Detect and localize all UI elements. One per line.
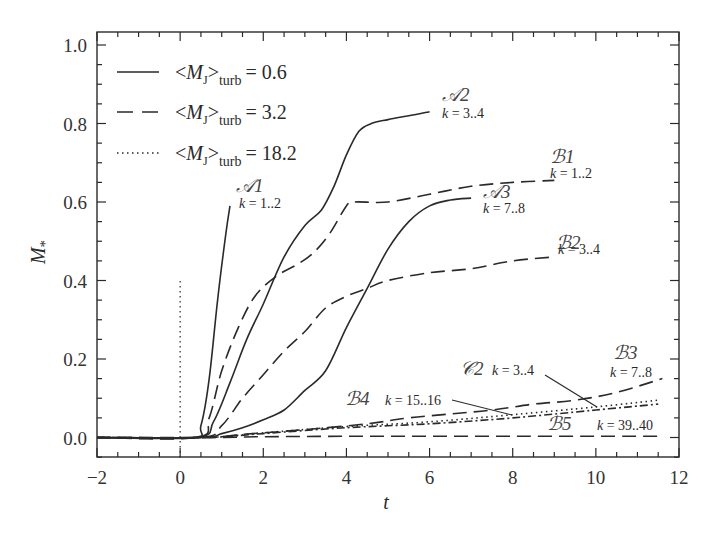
curve-annotations: 𝒜1k = 1..2𝒜2k = 3..4𝒜3k = 7..8ℬ1k = 1..2… [236, 84, 653, 434]
x-tick-label: 6 [425, 467, 435, 488]
y-tick-label: 0.2 [63, 349, 87, 370]
annotation-k-b5: k = 39..40 [597, 418, 653, 433]
x-tick-label: −2 [87, 467, 107, 488]
annotation-b4: ℬ4 [345, 388, 370, 409]
annotation-k-b2: k = 3..4 [558, 242, 600, 257]
curve-a1 [97, 206, 230, 438]
x-tick-label: 10 [586, 467, 605, 488]
legend-label: <MJ>turb= 3.2 [175, 101, 287, 128]
legend-label: <MJ>turb= 0.6 [175, 61, 287, 88]
x-tick-label: 8 [508, 467, 518, 488]
curve-b1 [97, 180, 554, 439]
x-tick-label: 2 [259, 467, 269, 488]
curve-b3 [97, 379, 662, 438]
legend-label: <MJ>turb= 18.2 [175, 142, 297, 169]
y-tick-label: 0.8 [63, 114, 87, 135]
annotation-a3: 𝒜3 [483, 181, 511, 202]
legend: <MJ>turb= 0.6<MJ>turb= 3.2<MJ>turb= 18.2 [117, 61, 297, 169]
annotation-k-b4: k = 15..16 [385, 393, 441, 408]
y-tick-label: 0.0 [63, 428, 87, 449]
svg-text:M*: M* [27, 240, 53, 265]
x-tick-label: 4 [342, 467, 352, 488]
annotation-k-c2: k = 3..4 [492, 363, 534, 378]
curve-c2 [97, 400, 658, 438]
annotation-k-a3: k = 7..8 [483, 201, 525, 216]
annotation-b5: ℬ5 [547, 413, 572, 434]
axis-tick-labels: −20246810120.00.20.40.60.81.0 [63, 35, 688, 488]
annotation-c2: 𝒞2 [460, 358, 484, 379]
annotation-b3: ℬ3 [613, 342, 638, 363]
x-axis-label: t [383, 491, 389, 513]
x-tick-label: 0 [175, 467, 185, 488]
annotation-a2: 𝒜2 [442, 84, 470, 105]
y-axis-label: M* [27, 240, 53, 265]
y-tick-label: 1.0 [63, 35, 87, 56]
annotation-k-a1: k = 1..2 [239, 196, 281, 211]
x-tick-label: 12 [670, 467, 689, 488]
chart: −20246810120.00.20.40.60.81.0 <MJ>turb= … [0, 0, 714, 537]
y-tick-label: 0.4 [63, 271, 87, 292]
curve-b5 [97, 436, 658, 437]
annotation-k-a2: k = 3..4 [442, 106, 484, 121]
y-tick-label: 0.6 [63, 192, 87, 213]
annotation-k-b1: k = 1..2 [550, 166, 592, 181]
leader-line-c2 [545, 375, 597, 407]
annotation-a1: 𝒜1 [236, 175, 264, 196]
annotation-k-b3: k = 7..8 [610, 365, 652, 380]
curve-b4 [97, 404, 658, 438]
annotation-b1: ℬ1 [550, 146, 575, 167]
